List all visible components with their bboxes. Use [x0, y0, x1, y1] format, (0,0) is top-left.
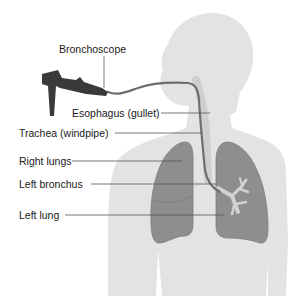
body-silhouette	[108, 13, 288, 296]
label-left-lung: Left lung	[19, 209, 59, 221]
label-left-bronchus: Left bronchus	[19, 178, 83, 190]
label-esophagus: Esophagus (gullet)	[72, 107, 160, 119]
label-right-lungs: Right lungs	[19, 155, 72, 167]
label-bronchoscope: Bronchoscope	[59, 43, 126, 55]
label-trachea: Trachea (windpipe)	[19, 127, 109, 139]
bronchoscopy-diagram	[0, 0, 299, 303]
